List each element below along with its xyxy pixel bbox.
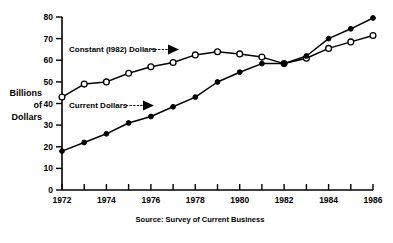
data-point [215, 80, 220, 85]
data-point [259, 54, 265, 60]
data-point [237, 51, 243, 57]
annotation-arrow-head [168, 45, 179, 55]
x-tick-label: 1978 [186, 195, 205, 205]
x-tick-label: 1980 [230, 195, 249, 205]
y-axis-tick-labels: 0 10 20 30 40 50 60 70 80 [44, 12, 54, 195]
data-point [237, 70, 242, 75]
data-point [215, 49, 221, 55]
data-point [192, 52, 198, 58]
data-point [104, 131, 109, 136]
data-point [126, 70, 132, 76]
x-axis-ticks [62, 184, 373, 190]
data-point [370, 33, 376, 39]
x-tick-label: 1976 [141, 195, 160, 205]
y-tick-label: 70 [44, 34, 54, 44]
source-note: Source: Survey of Current Business [136, 215, 265, 224]
y-tick-label: 0 [48, 185, 53, 195]
data-point [326, 36, 331, 41]
series-constant-dollars [59, 33, 376, 100]
y-tick-label: 10 [44, 163, 54, 173]
chart-figure: 0 10 20 30 40 50 60 70 80 [0, 0, 393, 243]
data-point [170, 60, 176, 66]
data-point [59, 94, 65, 100]
y-axis-title-line: Dollars [11, 112, 42, 122]
data-point [348, 26, 353, 31]
data-point [260, 61, 265, 66]
data-point [81, 81, 87, 87]
x-tick-label: 1984 [319, 195, 338, 205]
data-point [304, 54, 309, 59]
x-tick-label: 1986 [364, 195, 383, 205]
y-tick-label: 20 [44, 142, 54, 152]
x-axis-tick-labels: 1972 1974 1976 1978 1980 1982 1984 1986 [53, 195, 383, 205]
y-tick-label: 40 [44, 99, 54, 109]
data-point [282, 61, 287, 66]
x-tick-label: 1974 [97, 195, 116, 205]
y-tick-label: 50 [44, 77, 54, 87]
data-point [171, 104, 176, 109]
data-point [82, 140, 87, 145]
data-point [193, 95, 198, 100]
y-axis-title-line: of [34, 100, 43, 110]
data-point [104, 79, 110, 85]
annotation-label: Constant (I982) Dollars [69, 45, 157, 54]
data-point [148, 64, 154, 70]
data-point [126, 121, 131, 126]
line-chart-svg: 0 10 20 30 40 50 60 70 80 [0, 0, 393, 243]
data-point [326, 46, 332, 52]
y-axis-ticks [56, 17, 62, 190]
y-tick-label: 80 [44, 12, 54, 22]
x-tick-label: 1982 [275, 195, 294, 205]
data-point [348, 39, 354, 45]
data-point [371, 16, 376, 21]
annotation-constant-dollars: Constant (I982) Dollars [69, 45, 179, 55]
data-point [149, 114, 154, 119]
annotation-current-dollars: Current Dollars [69, 101, 154, 111]
annotation-arrow-head [143, 101, 154, 111]
y-tick-label: 30 [44, 120, 54, 130]
y-axis-title: Billions of Dollars [9, 88, 43, 122]
annotation-label: Current Dollars [69, 101, 128, 110]
x-tick-label: 1972 [53, 195, 72, 205]
data-point [60, 149, 65, 154]
y-axis-title-line: Billions [9, 88, 42, 98]
y-tick-label: 60 [44, 55, 54, 65]
